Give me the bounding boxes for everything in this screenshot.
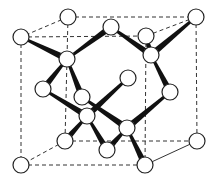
atom — [13, 29, 29, 45]
atom — [143, 47, 159, 63]
atom — [35, 81, 51, 97]
atom — [59, 51, 75, 67]
diamond-cubic-structure-diagram — [0, 0, 218, 183]
atom — [79, 108, 95, 124]
atom — [60, 9, 76, 25]
atom — [162, 84, 178, 100]
atom — [137, 157, 153, 173]
cell-edge-dashed — [196, 17, 197, 141]
atom — [99, 142, 115, 158]
atom — [119, 120, 135, 136]
atom — [138, 28, 154, 44]
atom — [189, 133, 205, 149]
atom — [103, 19, 119, 35]
cell-edge-dashed — [65, 17, 68, 141]
atom — [57, 133, 73, 149]
atom — [74, 89, 90, 105]
atom — [13, 157, 29, 173]
atom — [120, 70, 136, 86]
atom — [188, 9, 204, 25]
